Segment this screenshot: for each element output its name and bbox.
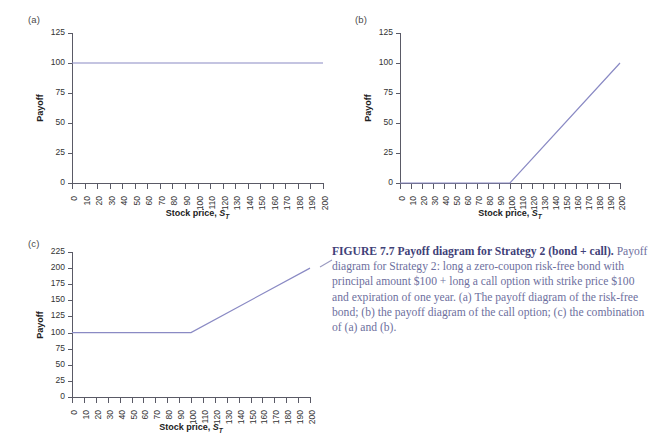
plot-area-a: 0255075100125010203040506070809010011012… [0, 0, 330, 230]
stray-pencil-mark [319, 258, 335, 270]
x-axis-title-text-c: Stock price, [159, 422, 213, 432]
figure-caption: FIGURE 7.7 Payoff diagram for Strategy 2… [332, 244, 650, 335]
series-line-b-0 [400, 63, 620, 183]
x-axis-title-b: Stock price, ST [360, 208, 651, 220]
y-axis-title-a: Payoff [33, 78, 47, 138]
x-axis-title-sub-a: T [225, 213, 229, 220]
series-group-b [330, 0, 651, 230]
figure-caption-lead: FIGURE 7.7 Payoff diagram for Strategy 2… [332, 245, 614, 258]
x-axis-title-a: Stock price, ST [32, 208, 363, 220]
x-axis-title-text-a: Stock price, [166, 208, 220, 218]
x-axis-title-sub-c: T [219, 427, 223, 434]
panel-b: (b) 025507510012501020304050607080901001… [330, 0, 651, 230]
series-group-c [0, 230, 330, 447]
x-axis-title-text-b: Stock price, [478, 208, 532, 218]
series-line-c-0 [72, 268, 310, 332]
plot-area-c: 0255075100125150175200225010203040506070… [0, 230, 330, 447]
y-axis-title-c: Payoff [33, 295, 47, 355]
figure-caption-body: Payoff diagram for Strategy 2: long a ze… [332, 245, 647, 334]
panel-c: (c) 025507510012515017520022501020304050… [0, 230, 330, 447]
x-axis-title-sub-b: T [538, 213, 542, 220]
x-axis-title-c: Stock price, ST [32, 422, 350, 434]
plot-area-b: 0255075100125010203040506070809010011012… [330, 0, 651, 230]
series-group-a [0, 0, 330, 230]
panel-a: (a) 025507510012501020304050607080901001… [0, 0, 330, 230]
y-axis-title-b: Payoff [361, 78, 375, 138]
